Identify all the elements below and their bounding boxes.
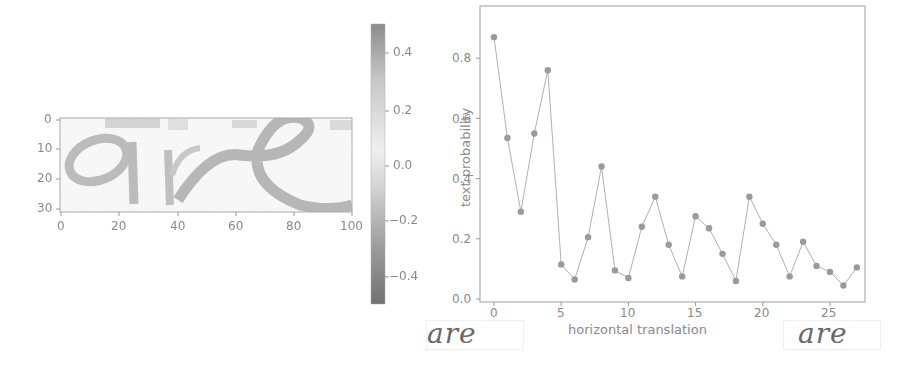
- x-axis-label: horizontal translation: [568, 322, 707, 337]
- data-point: [706, 225, 712, 231]
- word-image-right: are: [783, 320, 881, 350]
- line-xtick-label: 15: [687, 306, 702, 320]
- line-xtick-label: 5: [557, 306, 565, 320]
- line-chart-panel: text probability 0.0 0.2 0.4 0.6 0.8 0 5…: [440, 0, 907, 366]
- data-point: [491, 34, 497, 40]
- line-ytick-label: 0.2: [452, 232, 471, 246]
- series-line: [494, 37, 857, 285]
- heat-xtick-label: 0: [57, 219, 65, 233]
- data-point: [733, 278, 739, 284]
- heat-ytick-label: 10: [37, 141, 52, 155]
- data-point: [666, 242, 672, 248]
- data-point: [800, 239, 806, 245]
- line-xtick-label: 20: [754, 306, 769, 320]
- colorbar-tick-label: 0.2: [393, 103, 412, 117]
- line-ytick-label: 0.6: [452, 112, 471, 126]
- plot-frame: [480, 6, 865, 302]
- line-xtick-label: 0: [490, 306, 498, 320]
- colorbar-tick-label: −0.4: [389, 269, 418, 283]
- heatmap-plot: [0, 0, 440, 366]
- heat-xtick-label: 60: [228, 219, 243, 233]
- data-point: [760, 221, 766, 227]
- data-point: [585, 234, 591, 240]
- data-point: [625, 275, 631, 281]
- word-image-left: are: [426, 320, 524, 350]
- heat-xtick-label: 100: [340, 219, 363, 233]
- heat-ytick-label: 30: [37, 201, 52, 215]
- data-point: [854, 264, 860, 270]
- heat-xtick-label: 40: [170, 219, 185, 233]
- data-point: [545, 67, 551, 73]
- data-point: [679, 273, 685, 279]
- heat-xtick-label: 20: [111, 219, 126, 233]
- data-point: [598, 163, 604, 169]
- data-point: [571, 276, 577, 282]
- data-point: [531, 130, 537, 136]
- line-ytick-label: 0.0: [452, 292, 471, 306]
- data-point: [773, 242, 779, 248]
- data-point: [840, 282, 846, 288]
- heat-ytick-label: 20: [37, 171, 52, 185]
- data-point: [813, 263, 819, 269]
- line-chart-plot: [440, 0, 907, 366]
- heat-ytick-label: 0: [44, 112, 52, 126]
- series-markers: [491, 34, 860, 289]
- colorbar-tick-label: −0.2: [389, 213, 418, 227]
- data-point: [652, 193, 658, 199]
- line-xtick-label: 10: [620, 306, 635, 320]
- line-ytick-label: 0.8: [452, 51, 471, 65]
- word-image-right-text: are: [784, 320, 848, 350]
- data-point: [746, 193, 752, 199]
- heatmap-panel: 0 10 20 30 0 20 40 60 80 100 0.4 0.2 0.0…: [0, 0, 440, 366]
- data-point: [558, 261, 564, 267]
- data-point: [518, 209, 524, 215]
- data-point: [719, 251, 725, 257]
- data-point: [504, 135, 510, 141]
- word-image-left-text: are: [427, 320, 477, 350]
- data-point: [612, 267, 618, 273]
- heat-xtick-label: 80: [286, 219, 301, 233]
- line-xtick-label: 25: [821, 306, 836, 320]
- line-ytick-label: 0.4: [452, 172, 471, 186]
- data-point: [692, 213, 698, 219]
- data-point: [639, 224, 645, 230]
- data-point: [786, 273, 792, 279]
- colorbar-tick-label: 0.4: [393, 45, 412, 59]
- data-point: [827, 269, 833, 275]
- colorbar-tick-label: 0.0: [393, 158, 412, 172]
